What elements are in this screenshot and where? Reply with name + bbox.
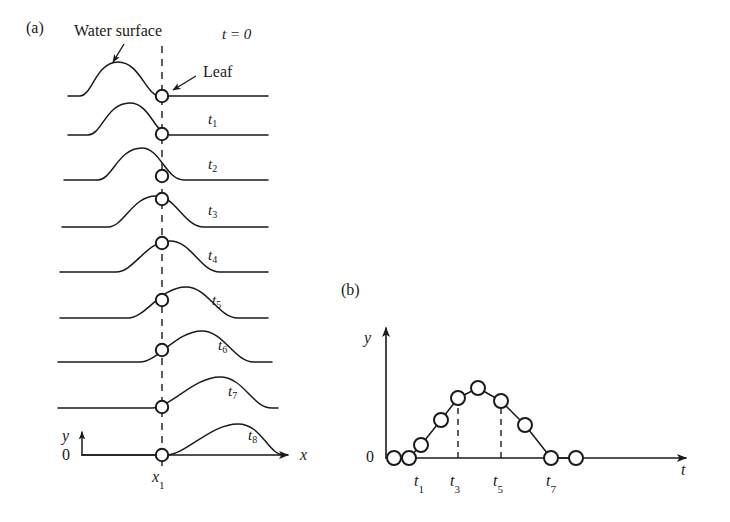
leaf-marker bbox=[156, 128, 168, 140]
panel-b-y-axis-label: y bbox=[364, 330, 371, 346]
x1-sub: 1 bbox=[159, 479, 165, 491]
row-label-sub: 2 bbox=[212, 163, 217, 174]
leaf-label: Leaf bbox=[203, 64, 232, 80]
panel-a-x-axis-label: x bbox=[300, 447, 307, 463]
panel-a-origin-label: 0 bbox=[62, 447, 70, 463]
row-label-sub: 4 bbox=[212, 254, 217, 265]
row-label-sub: 7 bbox=[232, 390, 237, 401]
row-label-t5: t5 bbox=[212, 293, 221, 308]
panel-b-t-axis-label: t bbox=[681, 462, 685, 478]
data-point bbox=[451, 391, 465, 405]
row-label-sub: 3 bbox=[212, 209, 217, 220]
tick-sub: 3 bbox=[454, 483, 460, 495]
panel-b-tick-t1: t1 bbox=[414, 473, 424, 492]
panel-a-tag: (a) bbox=[26, 20, 44, 36]
panel-b-tick-t3: t3 bbox=[450, 473, 460, 492]
data-point bbox=[387, 451, 401, 465]
panel-a-leaf-markers bbox=[156, 90, 168, 461]
water-surface-label: Water surface bbox=[74, 23, 162, 39]
leaf-arrow bbox=[173, 76, 196, 90]
tick-sub: 7 bbox=[550, 483, 556, 495]
data-point bbox=[434, 413, 448, 427]
water-surface-arrow bbox=[113, 44, 124, 62]
panel-a-y-axis-label: y bbox=[62, 428, 69, 444]
leaf-marker bbox=[156, 193, 168, 205]
data-point bbox=[544, 451, 558, 465]
panel-b-data-points bbox=[387, 381, 583, 465]
x1-position-label: x1 bbox=[152, 469, 165, 488]
panel-b-tick-t5: t5 bbox=[493, 473, 503, 492]
leaf-marker bbox=[156, 90, 168, 102]
data-point bbox=[518, 418, 532, 432]
leaf-marker bbox=[156, 401, 168, 413]
row-label-t7: t7 bbox=[228, 384, 237, 399]
panel-a-waveforms bbox=[58, 62, 284, 455]
row-label-sub: 1 bbox=[212, 118, 217, 129]
figure-svg bbox=[0, 0, 730, 522]
time-zero-label: t = 0 bbox=[222, 27, 251, 42]
tick-sub: 5 bbox=[497, 483, 503, 495]
leaf-marker bbox=[156, 294, 168, 306]
data-point bbox=[471, 381, 485, 395]
row-label-t8: t8 bbox=[248, 428, 257, 443]
row-label-t2: t2 bbox=[208, 157, 217, 172]
leaf-marker bbox=[156, 170, 168, 182]
row-label-sub: 8 bbox=[252, 434, 257, 445]
data-point bbox=[494, 394, 508, 408]
leaf-marker bbox=[156, 237, 168, 249]
data-point bbox=[414, 438, 428, 452]
figure-root: (a) Water surface Leaf t = 0 t1 t2 t3 t4… bbox=[0, 0, 730, 522]
row-label-t6: t6 bbox=[218, 338, 227, 353]
panel-b-tag: (b) bbox=[341, 282, 360, 298]
panel-b-origin-label: 0 bbox=[366, 449, 374, 465]
row-label-t1: t1 bbox=[208, 112, 217, 127]
row-label-sub: 6 bbox=[222, 344, 227, 355]
time-zero-text: t = 0 bbox=[222, 26, 251, 42]
leaf-marker bbox=[156, 344, 168, 356]
row-label-t4: t4 bbox=[208, 248, 217, 263]
row-label-t3: t3 bbox=[208, 203, 217, 218]
row-label-sub: 5 bbox=[216, 299, 221, 310]
leaf-marker bbox=[156, 449, 168, 461]
panel-a-annotation-arrows bbox=[113, 44, 196, 90]
data-point bbox=[402, 451, 416, 465]
data-point bbox=[569, 451, 583, 465]
wave-curve-t0 bbox=[68, 62, 268, 96]
tick-sub: 1 bbox=[418, 483, 424, 495]
panel-b-tick-t7: t7 bbox=[546, 473, 556, 492]
